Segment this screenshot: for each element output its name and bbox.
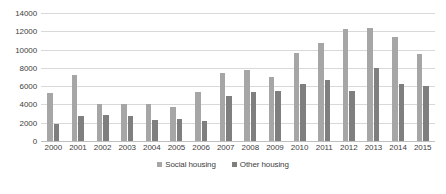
- bar-group-2010: [294, 13, 306, 141]
- chart-legend: Social housingOther housing: [0, 160, 446, 169]
- x-tick-label-2000: 2000: [45, 143, 62, 152]
- bar-group-2014: [392, 13, 404, 141]
- x-tick-label-2006: 2006: [192, 143, 209, 152]
- x-tick-label-2011: 2011: [316, 143, 333, 152]
- bar-social-housing-2013: [367, 28, 373, 141]
- bar-social-housing-2010: [294, 53, 300, 141]
- legend-label: Other housing: [240, 160, 289, 169]
- bar-social-housing-2001: [72, 75, 78, 141]
- gridline-0: [41, 141, 435, 142]
- bar-other-housing-2010: [300, 84, 306, 141]
- bar-group-2005: [170, 13, 182, 141]
- x-tick-label-2003: 2003: [118, 143, 135, 152]
- bar-group-2007: [220, 13, 232, 141]
- bar-other-housing-2007: [226, 96, 232, 141]
- x-tick-label-2004: 2004: [143, 143, 160, 152]
- bar-group-2003: [121, 13, 133, 141]
- legend-swatch-icon: [232, 162, 237, 167]
- bar-group-2006: [195, 13, 207, 141]
- bar-group-2012: [343, 13, 355, 141]
- bar-other-housing-2002: [103, 115, 109, 141]
- bar-social-housing-2012: [343, 29, 349, 141]
- y-tick-label: 12000: [15, 27, 37, 36]
- bar-group-2013: [367, 13, 379, 141]
- x-tick-label-2001: 2001: [69, 143, 86, 152]
- plot-bars: [41, 13, 435, 141]
- bar-group-2009: [269, 13, 281, 141]
- bar-social-housing-2008: [244, 70, 250, 141]
- bar-other-housing-2013: [374, 68, 380, 141]
- bar-chart: 02000400060008000100001200014000 2000200…: [0, 0, 446, 194]
- x-tick-label-2014: 2014: [389, 143, 406, 152]
- bar-other-housing-2003: [128, 116, 134, 141]
- bar-social-housing-2009: [269, 77, 275, 141]
- bar-group-2011: [318, 13, 330, 141]
- bar-other-housing-2005: [177, 119, 183, 141]
- bar-other-housing-2015: [423, 86, 429, 141]
- bar-group-2000: [47, 13, 59, 141]
- bar-other-housing-2006: [202, 121, 208, 141]
- bar-other-housing-2009: [275, 91, 281, 141]
- y-tick-label: 0: [33, 137, 37, 146]
- bar-group-2002: [97, 13, 109, 141]
- x-tick-label-2005: 2005: [168, 143, 185, 152]
- bar-other-housing-2014: [399, 84, 405, 141]
- bar-social-housing-2003: [121, 104, 127, 141]
- bar-social-housing-2014: [392, 37, 398, 141]
- x-tick-label-2009: 2009: [266, 143, 283, 152]
- bar-social-housing-2007: [220, 73, 226, 141]
- bar-social-housing-2011: [318, 43, 324, 141]
- bar-social-housing-2006: [195, 92, 201, 141]
- bar-other-housing-2000: [54, 124, 60, 141]
- bar-other-housing-2011: [325, 80, 331, 141]
- bar-social-housing-2005: [170, 107, 176, 141]
- bar-group-2008: [244, 13, 256, 141]
- x-axis-labels: 2000200120022003200420052006200720082009…: [41, 143, 435, 157]
- bar-group-2004: [146, 13, 158, 141]
- bar-other-housing-2001: [78, 116, 84, 141]
- x-tick-label-2002: 2002: [94, 143, 111, 152]
- y-tick-label: 14000: [15, 9, 37, 18]
- x-tick-label-2012: 2012: [340, 143, 357, 152]
- legend-item-social-housing[interactable]: Social housing: [157, 160, 216, 169]
- y-tick-label: 4000: [20, 100, 37, 109]
- bar-group-2001: [72, 13, 84, 141]
- bar-other-housing-2008: [251, 92, 257, 141]
- y-tick-label: 10000: [15, 45, 37, 54]
- x-tick-label-2008: 2008: [242, 143, 259, 152]
- bar-other-housing-2012: [349, 91, 355, 141]
- y-tick-label: 2000: [20, 118, 37, 127]
- x-tick-label-2015: 2015: [414, 143, 431, 152]
- x-tick-label-2013: 2013: [365, 143, 382, 152]
- bar-social-housing-2000: [47, 93, 53, 141]
- bar-social-housing-2004: [146, 104, 152, 141]
- bar-social-housing-2002: [97, 104, 103, 141]
- legend-label: Social housing: [165, 160, 216, 169]
- bar-social-housing-2015: [417, 54, 423, 141]
- y-axis-labels: 02000400060008000100001200014000: [0, 13, 37, 141]
- bar-other-housing-2004: [152, 120, 158, 141]
- x-tick-label-2010: 2010: [291, 143, 308, 152]
- y-tick-label: 8000: [20, 63, 37, 72]
- x-tick-label-2007: 2007: [217, 143, 234, 152]
- y-tick-label: 6000: [20, 82, 37, 91]
- legend-swatch-icon: [157, 162, 162, 167]
- bar-group-2015: [417, 13, 429, 141]
- legend-item-other-housing[interactable]: Other housing: [232, 160, 289, 169]
